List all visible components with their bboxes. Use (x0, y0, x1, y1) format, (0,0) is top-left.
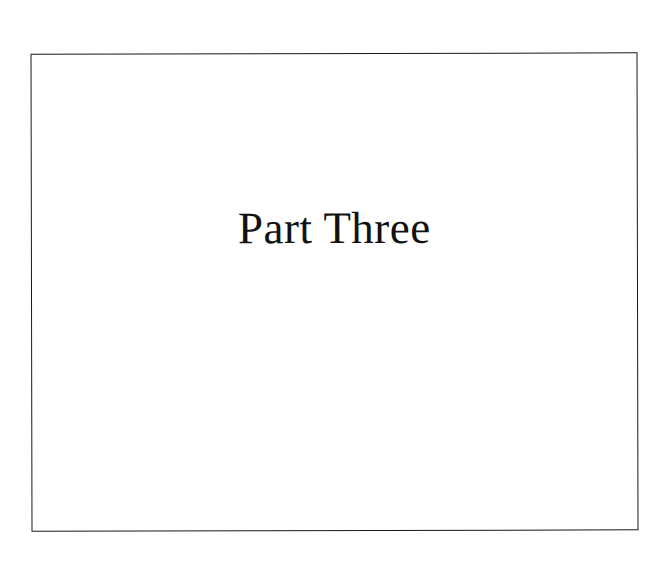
part-title-frame: Part Three (31, 52, 639, 531)
part-page-blank-area (32, 303, 637, 530)
scanned-page: Part Three (0, 0, 662, 580)
part-title-block: Part Three (32, 205, 637, 251)
page-sheet: Part Three (0, 0, 662, 580)
part-title-text: Part Three (238, 206, 431, 251)
